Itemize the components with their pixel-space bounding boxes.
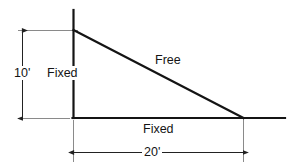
wedge-diagram-figure: 10' Fixed Free Fixed 20' <box>0 0 293 168</box>
bottom-edge-label: Fixed <box>141 122 176 136</box>
width-dimension-label: 20' <box>142 145 162 159</box>
height-dimension-label: 10' <box>12 66 32 80</box>
label-layer: 10' Fixed Free Fixed 20' <box>0 0 293 168</box>
left-edge-label: Fixed <box>45 66 80 80</box>
hypotenuse-edge-label: Free <box>153 53 183 67</box>
